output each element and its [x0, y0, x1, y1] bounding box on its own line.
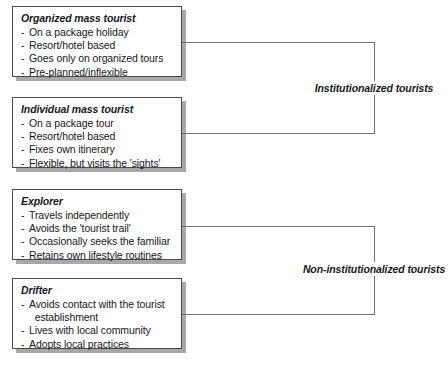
- group-label-non-institutionalized-tourists: Non-institutionalized tourists: [300, 262, 448, 276]
- box-title: Individual mass tourist: [21, 103, 181, 116]
- group-label-institutionalized-tourists: Institutionalized tourists: [312, 81, 437, 95]
- bullet-item: Resort/hotel based: [21, 130, 181, 143]
- bullet-item: On a package holiday: [21, 26, 181, 39]
- box-explorer: Explorer Travels independently Avoids th…: [12, 189, 182, 260]
- box-individual-mass-tourist: Individual mass tourist On a package tou…: [12, 97, 182, 168]
- connector-line-box3: [182, 226, 375, 227]
- bullet-item: Fixes own itinerary: [21, 143, 181, 156]
- box-bullet-list: Travels independently Avoids the 'touris…: [21, 209, 181, 262]
- box-bullet-list: On a package holiday Resort/hotel based …: [21, 26, 181, 79]
- bullet-item: Pre-planned/inflexible: [21, 66, 181, 79]
- bullet-item: Occasionally seeks the familiar: [21, 235, 181, 248]
- bullet-item: Lives with local community: [21, 324, 181, 337]
- bullet-item: On a package tour: [21, 117, 181, 130]
- box-title: Organized mass tourist: [21, 12, 181, 25]
- box-bullet-list: On a package tour Resort/hotel based Fix…: [21, 117, 181, 170]
- bullet-item: Adopts local practices: [21, 338, 181, 351]
- box-drifter: Drifter Avoids contact with the tourist …: [12, 278, 182, 349]
- bullet-item: Avoids contact with the tourist establis…: [21, 298, 181, 324]
- diagram-canvas: Organized mass tourist On a package holi…: [0, 0, 448, 367]
- box-title: Explorer: [21, 195, 181, 208]
- connector-line-box1: [182, 42, 375, 43]
- box-title: Drifter: [21, 284, 181, 297]
- bullet-item: Resort/hotel based: [21, 39, 181, 52]
- bullet-item: Flexible, but visits the 'sights': [21, 157, 181, 170]
- bullet-item: Goes only on organized tours: [21, 52, 181, 65]
- connector-line-box4: [182, 314, 375, 315]
- box-organized-mass-tourist: Organized mass tourist On a package holi…: [12, 6, 182, 77]
- connector-line-box2: [182, 133, 375, 134]
- bullet-item: Avoids the 'tourist trail': [21, 222, 181, 235]
- box-bullet-list: Avoids contact with the tourist establis…: [21, 298, 181, 351]
- bullet-item: Travels independently: [21, 209, 181, 222]
- bullet-item: Retains own lifestyle routines: [21, 249, 181, 262]
